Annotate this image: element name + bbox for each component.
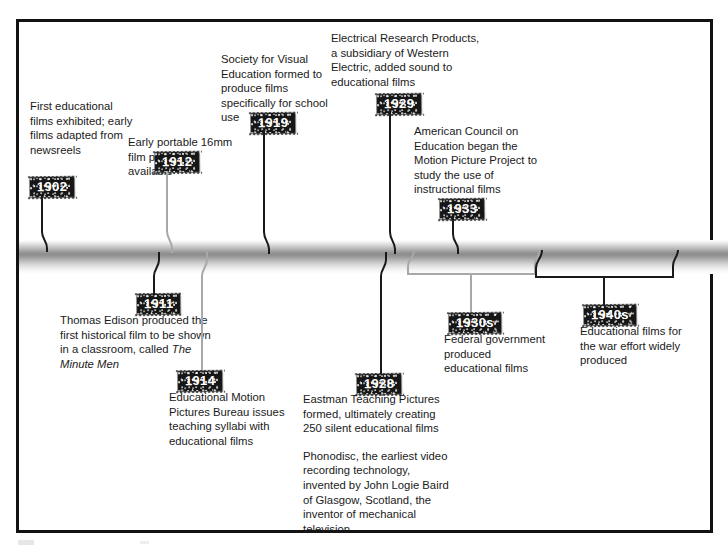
scan-artifact [140, 541, 149, 544]
caption-1902: First educational films exhibited; early… [30, 99, 135, 157]
connector-1914 [196, 252, 212, 376]
year-plaque-1911[interactable]: 1911 [137, 294, 181, 314]
caption-1928: Eastman Teaching Pictures formed, ultima… [303, 392, 455, 536]
year-plaque-1912[interactable]: 1912 [155, 152, 199, 172]
connector-1929 [384, 113, 400, 254]
connector-1933 [447, 218, 463, 254]
caption-1914: Educational Motion Pictures Bureau issue… [169, 390, 294, 448]
connector-1912 [161, 171, 177, 253]
caption-1928-para-1: Eastman Teaching Pictures formed, ultima… [303, 392, 455, 436]
connector-1902 [36, 196, 52, 252]
caption-1929: Electrical Research Products, a subsidia… [331, 31, 481, 89]
caption-1928-para-2: Phonodisc, the earliest video recording … [303, 449, 455, 537]
scan-artifact [18, 540, 34, 545]
connector-1930s [404, 250, 544, 320]
year-plaque-1933[interactable]: 1933 [440, 199, 484, 219]
year-plaque-1930s[interactable]: 1930s [449, 313, 501, 334]
caption-1933: American Council on Education began the … [414, 124, 538, 197]
year-plaque-1929[interactable]: 1929 [377, 94, 421, 114]
connector-1911 [148, 252, 164, 298]
connector-1919 [258, 132, 274, 254]
caption-1940s: Educational films for the war effort wid… [580, 324, 688, 368]
caption-1930s: Federal government produced educational … [444, 332, 549, 376]
timeline-infographic: First educational films exhibited; early… [0, 0, 728, 549]
connector-1928 [375, 252, 391, 380]
year-plaque-1940s[interactable]: 1940s [584, 305, 636, 326]
connector-1940s [531, 250, 681, 312]
year-plaque-1902[interactable]: 1902 [30, 177, 74, 197]
year-plaque-1919[interactable]: 1919 [251, 113, 295, 133]
year-plaque-1914[interactable]: 1914 [178, 371, 222, 391]
